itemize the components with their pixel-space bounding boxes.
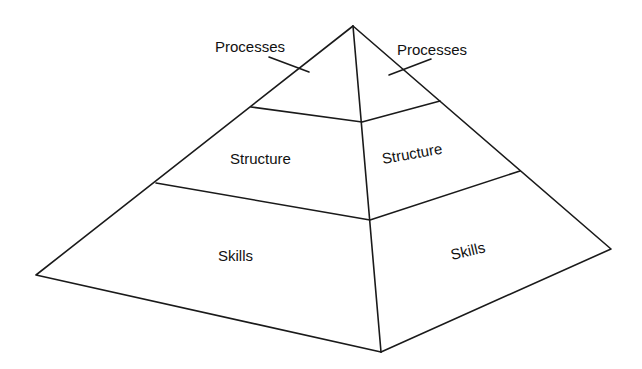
leader-line-right <box>389 59 431 75</box>
label-skills-right: Skills <box>449 238 487 262</box>
pyramid-diagram: Processes Processes Structure Structure … <box>0 0 642 369</box>
label-skills-left: Skills <box>218 247 253 264</box>
label-structure-left: Structure <box>230 150 291 167</box>
label-processes-right: Processes <box>397 41 467 58</box>
pyramid-right-edge <box>353 26 611 352</box>
label-structure-right: Structure <box>381 140 444 167</box>
tier-divider-lower <box>156 171 520 220</box>
pyramid-left-edge <box>36 26 381 352</box>
label-processes-left: Processes <box>215 38 285 55</box>
tier-divider-upper <box>251 101 440 122</box>
pyramid-front-edge <box>353 26 381 352</box>
